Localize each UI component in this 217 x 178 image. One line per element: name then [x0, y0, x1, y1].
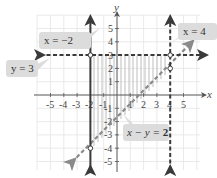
svg-text:x − y = 2: x − y = 2: [126, 126, 169, 138]
svg-text:5: 5: [108, 23, 113, 34]
svg-text:x = −2: x = −2: [44, 34, 73, 46]
svg-text:-4: -4: [104, 143, 112, 154]
svg-text:y = 3: y = 3: [11, 62, 34, 74]
callout-y-eq-3: y = 3: [6, 58, 50, 77]
svg-text:x = 4: x = 4: [183, 25, 206, 37]
svg-text:-2: -2: [104, 116, 112, 127]
svg-text:-2: -2: [85, 99, 93, 110]
svg-text:-4: -4: [59, 99, 67, 110]
svg-text:-1: -1: [104, 103, 112, 114]
svg-text:-5: -5: [46, 99, 54, 110]
svg-text:2: 2: [108, 63, 113, 74]
graph: -5 -4 -3 -2 -1 1 2 3 4 5 5 4 3 2 1 -1 -2…: [0, 0, 217, 178]
svg-text:2: 2: [141, 99, 146, 110]
callout-x-eq-4: x = 4: [168, 23, 217, 44]
svg-text:5: 5: [181, 99, 186, 110]
x-axis-label: x: [206, 88, 212, 100]
svg-text:1: 1: [108, 76, 113, 87]
callout-x-minus-y-eq-2: x − y = 2: [122, 113, 169, 141]
svg-text:-3: -3: [72, 99, 80, 110]
svg-text:3: 3: [154, 99, 159, 110]
svg-text:-5: -5: [104, 156, 112, 167]
svg-text:-3: -3: [104, 129, 112, 140]
y-axis-label: y: [113, 1, 119, 13]
svg-text:4: 4: [108, 36, 113, 47]
